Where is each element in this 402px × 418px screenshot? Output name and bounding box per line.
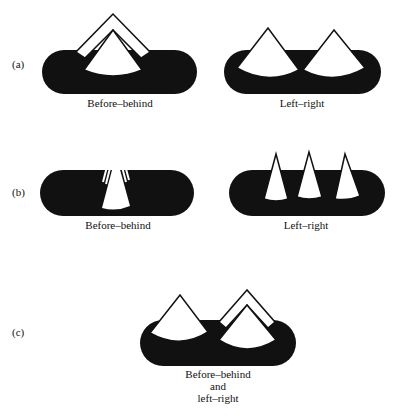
diagram-canvas [0, 0, 402, 418]
panel-a-left-right [224, 28, 381, 94]
caption-c-line-3: left–right [168, 392, 268, 404]
caption-c-line-1: Before–behind [168, 368, 268, 380]
caption-c-line-2: and [168, 380, 268, 392]
panel-a-before-behind [42, 14, 197, 94]
caption-b-before-behind: Before–behind [68, 219, 168, 231]
panel-b-left-right [229, 152, 385, 216]
row-label-c: (c) [12, 326, 24, 338]
caption-b-left-right: Left–right [256, 219, 356, 231]
row-label-b: (b) [12, 186, 25, 198]
caption-a-before-behind: Before–behind [70, 97, 170, 109]
panel-c-combined [140, 290, 296, 366]
panel-b-before-behind [40, 132, 194, 216]
row-label-a: (a) [12, 58, 24, 70]
caption-a-left-right: Left–right [252, 97, 352, 109]
